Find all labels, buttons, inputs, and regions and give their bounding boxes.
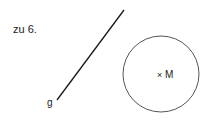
line-label-g: g (47, 97, 53, 108)
center-label-m: M (165, 69, 173, 80)
line-g (57, 10, 124, 100)
exercise-heading: zu 6. (13, 23, 37, 35)
diagram-canvas: zu 6. g × M (0, 0, 211, 120)
center-marker: × (157, 70, 162, 80)
